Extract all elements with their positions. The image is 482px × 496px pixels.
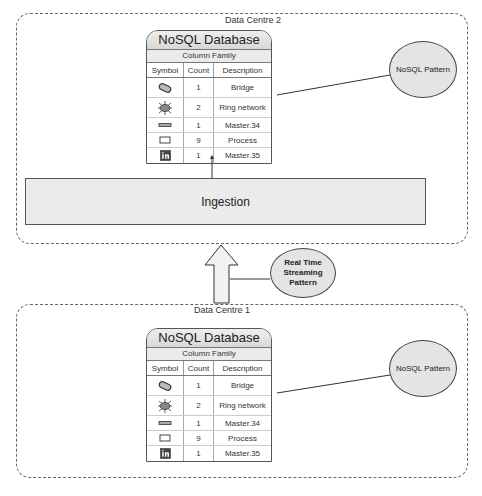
database-title: NoSQL Database <box>147 329 271 348</box>
count-cell: 1 <box>184 118 214 133</box>
description-cell: Ring network <box>214 98 272 118</box>
database-table: Symbol Count Description 1 Bridge <box>147 63 271 163</box>
database-table: Symbol Count Description 1 Bridge <box>147 361 271 461</box>
count-cell: 1 <box>184 416 214 431</box>
nosql-pattern-ellipse-dc2: NoSQL Pattern <box>389 41 457 98</box>
description-cell: Bridge <box>214 376 272 396</box>
table-row: 1 Bridge <box>147 376 271 396</box>
symbol-cell <box>147 118 184 133</box>
table-row: 1 Master.34 <box>147 118 271 133</box>
symbol-cell <box>147 148 184 163</box>
nosql-database-table-dc1: NoSQL Database Column Family Symbol Coun… <box>146 328 272 462</box>
table-row: 1 Bridge <box>147 78 271 98</box>
description-cell: Bridge <box>214 78 272 98</box>
symbol-cell <box>147 376 184 396</box>
table-row: 1 Master.35 <box>147 148 271 163</box>
linkedin-icon <box>160 150 171 161</box>
symbol-cell <box>147 416 184 431</box>
up-arrow-icon <box>205 245 238 303</box>
bridge-icon <box>157 82 173 94</box>
column-header-description: Description <box>214 361 272 376</box>
count-cell: 1 <box>184 376 214 396</box>
bridge-icon <box>157 380 173 392</box>
linkedin-icon <box>160 448 171 459</box>
description-cell: Master.35 <box>214 446 272 461</box>
nosql-pattern-label: NoSQL Pattern <box>396 65 450 74</box>
column-header-count: Count <box>184 63 214 78</box>
count-cell: 1 <box>184 78 214 98</box>
description-cell: Ring network <box>214 396 272 416</box>
table-row: 2 Ring network <box>147 396 271 416</box>
table-row: 2 Ring network <box>147 98 271 118</box>
table-row: 9 Process <box>147 431 271 446</box>
description-cell: Master.34 <box>214 416 272 431</box>
nosql-pattern-ellipse-dc1: NoSQL Pattern <box>389 340 457 397</box>
count-cell: 1 <box>184 148 214 163</box>
count-cell: 9 <box>184 133 214 148</box>
process-rectangle-icon <box>159 136 171 144</box>
data-centre-2-label: Data Centre 2 <box>213 15 293 25</box>
database-subtitle: Column Family <box>147 348 271 361</box>
nosql-database-table-dc2: NoSQL Database Column Family Symbol Coun… <box>146 30 272 164</box>
table-row: 1 Master.35 <box>147 446 271 461</box>
master-bar-icon <box>158 420 172 426</box>
description-cell: Process <box>214 431 272 446</box>
description-cell: Master.35 <box>214 148 272 163</box>
count-cell: 2 <box>184 98 214 118</box>
nosql-pattern-label: NoSQL Pattern <box>396 364 450 373</box>
data-centre-1-label: Data Centre 1 <box>182 305 262 315</box>
column-header-symbol: Symbol <box>147 63 184 78</box>
table-row: 9 Process <box>147 133 271 148</box>
streaming-pattern-label: Real Time Streaming Pattern <box>283 258 322 288</box>
table-row: 1 Master.34 <box>147 416 271 431</box>
master-bar-icon <box>158 122 172 128</box>
symbol-cell <box>147 396 184 416</box>
count-cell: 2 <box>184 396 214 416</box>
table-header-row: Symbol Count Description <box>147 361 271 376</box>
description-cell: Master.34 <box>214 118 272 133</box>
count-cell: 1 <box>184 446 214 461</box>
symbol-cell <box>147 98 184 118</box>
column-header-count: Count <box>184 361 214 376</box>
ingestion-label: Ingestion <box>201 195 250 209</box>
ingestion-box: Ingestion <box>25 178 426 225</box>
process-rectangle-icon <box>159 434 171 442</box>
ring-network-icon <box>157 101 173 115</box>
symbol-cell <box>147 446 184 461</box>
symbol-cell <box>147 431 184 446</box>
symbol-cell <box>147 78 184 98</box>
description-cell: Process <box>214 133 272 148</box>
database-title: NoSQL Database <box>147 31 271 50</box>
count-cell: 9 <box>184 431 214 446</box>
column-header-description: Description <box>214 63 272 78</box>
table-header-row: Symbol Count Description <box>147 63 271 78</box>
real-time-streaming-pattern-ellipse: Real Time Streaming Pattern <box>270 248 336 298</box>
ring-network-icon <box>157 399 173 413</box>
symbol-cell <box>147 133 184 148</box>
column-header-symbol: Symbol <box>147 361 184 376</box>
database-subtitle: Column Family <box>147 50 271 63</box>
